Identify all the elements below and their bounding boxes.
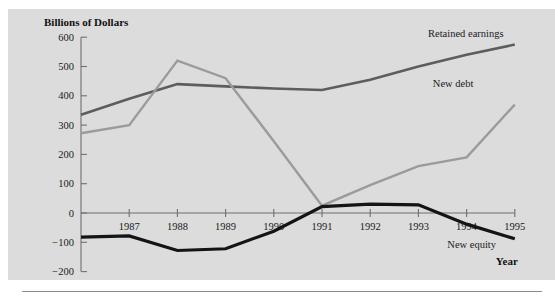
x-axis-tick-label: 1991 [312, 221, 333, 232]
horizontal-rule [22, 291, 542, 292]
y-axis-tick-label: −100 [52, 237, 74, 248]
y-axis-title: Billions of Dollars [44, 16, 129, 28]
series-label-retained-earnings: Retained earnings [428, 28, 504, 39]
x-axis-tick-label: 1988 [167, 221, 188, 232]
series-label-new-debt: New debt [433, 78, 474, 89]
y-axis-tick-label: −200 [52, 266, 74, 277]
figure-page: −200−10001002003004005006001987198819891… [0, 0, 555, 301]
y-axis-tick-label: 500 [58, 61, 74, 72]
x-axis-tick-label: 1992 [360, 221, 381, 232]
y-axis-tick-label: 100 [58, 178, 74, 189]
y-axis-tick-label: 600 [58, 32, 74, 43]
y-axis-tick-label: 300 [58, 120, 74, 131]
series-label-new-equity: New equity [447, 239, 496, 250]
x-axis-tick-label: 1989 [215, 221, 236, 232]
x-axis-title: Year [496, 255, 518, 267]
y-axis-tick-label: 200 [58, 149, 74, 160]
x-axis-tick-label: 1995 [504, 221, 525, 232]
line-chart: −200−10001002003004005006001987198819891… [0, 0, 555, 301]
x-axis-tick-label: 1987 [119, 221, 140, 232]
y-axis-tick-label: 400 [58, 90, 74, 101]
x-axis-tick-label: 1993 [408, 221, 429, 232]
y-axis-tick-label: 0 [69, 208, 74, 219]
